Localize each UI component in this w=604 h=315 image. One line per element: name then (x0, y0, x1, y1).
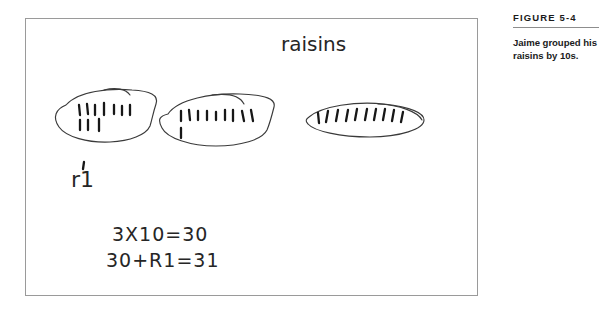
figure-5-4: raisins (0, 0, 604, 315)
group-1-tally-row-2 (80, 119, 99, 131)
remainder-note: r1 (71, 162, 94, 192)
group-3-tally-row-1 (318, 109, 403, 123)
equation-line-1: 3X10=30 (112, 223, 208, 245)
group-1-oval-icon (55, 89, 156, 142)
remainder-tick-mark (83, 162, 84, 169)
student-work-panel: raisins (25, 18, 478, 296)
figure-caption-text: Jaime grouped his raisins by 10s. (513, 37, 599, 62)
equation-line-2: 30+R1=31 (106, 249, 219, 271)
group-1-tally-row-1 (79, 103, 130, 115)
raisin-group-2 (160, 94, 275, 146)
raisin-group-3 (306, 103, 424, 137)
raisin-group-1 (55, 89, 156, 142)
group-2-tally-row-1 (181, 110, 253, 121)
equation-block: 3X10=30 30+R1=31 (106, 223, 219, 271)
raisins-heading-handwriting: raisins (281, 32, 346, 56)
figure-caption-column: FIGURE 5-4 Jaime grouped his raisins by … (513, 12, 599, 62)
handwritten-work-drawing: raisins (26, 19, 477, 295)
raisins-heading-text: raisins (281, 32, 346, 56)
group-2-oval-tail (212, 94, 244, 104)
figure-number-label: FIGURE 5-4 (513, 12, 599, 24)
remainder-text: r1 (71, 167, 94, 192)
caption-divider (513, 27, 599, 28)
